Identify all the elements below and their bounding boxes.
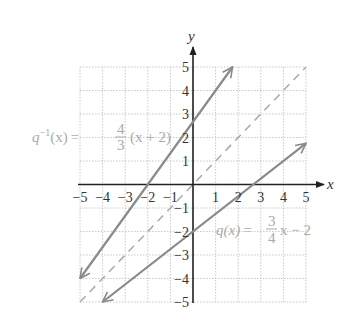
y-tick-label: −1 xyxy=(174,201,189,216)
svg-text:(x + 2): (x + 2) xyxy=(130,129,171,146)
x-tick-label: −3 xyxy=(118,190,133,205)
y-tick-label: 1 xyxy=(182,154,189,169)
x-tick-label: 2 xyxy=(235,190,242,205)
svg-text:q(x)=: q(x)= xyxy=(216,222,252,239)
x-tick-labels: −5−4−3−2−112345 xyxy=(73,190,310,205)
y-tick-label: −5 xyxy=(174,295,189,310)
inverse-function-label: q−1(x)= 4 3 (x + 2) xyxy=(32,121,171,153)
svg-text:3: 3 xyxy=(117,137,125,153)
x-tick-label: −5 xyxy=(73,190,88,205)
coordinate-graph: −5−4−3−2−112345 54321−1−2−3−4−5 x y q−1(… xyxy=(0,0,348,318)
y-tick-label: 5 xyxy=(182,60,189,75)
y-tick-label: −2 xyxy=(174,225,189,240)
svg-text:3: 3 xyxy=(268,213,276,229)
y-tick-label: 4 xyxy=(182,84,189,99)
x-tick-label: 5 xyxy=(303,190,310,205)
svg-text:4: 4 xyxy=(117,121,125,137)
svg-text:q−1(x)=: q−1(x)= xyxy=(32,127,79,146)
x-tick-label: 4 xyxy=(280,190,287,205)
x-tick-label: −4 xyxy=(95,190,110,205)
y-tick-label: 2 xyxy=(182,131,189,146)
x-tick-label: 1 xyxy=(212,190,219,205)
y-tick-label: 3 xyxy=(182,107,189,122)
function-label: q(x)= 3 4 x − 2 xyxy=(216,213,311,246)
x-axis-label: x xyxy=(326,176,334,192)
svg-text:x − 2: x − 2 xyxy=(280,222,311,238)
y-axis-label: y xyxy=(186,28,195,44)
y-tick-label: −3 xyxy=(174,248,189,263)
x-tick-label: −2 xyxy=(140,190,155,205)
x-tick-label: 3 xyxy=(257,190,264,205)
y-tick-label: −4 xyxy=(174,272,189,287)
svg-text:4: 4 xyxy=(268,230,276,246)
